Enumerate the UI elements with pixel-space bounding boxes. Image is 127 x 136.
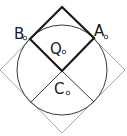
label-b: B — [14, 25, 24, 43]
label-c: C — [54, 80, 64, 98]
point-marker-a — [104, 35, 108, 39]
label-a: A — [94, 22, 105, 40]
geometry-diagram: B A Q C — [0, 0, 127, 136]
diagram-svg: B A Q C — [0, 0, 127, 136]
point-marker-b — [23, 36, 27, 40]
bold-square — [30, 7, 94, 71]
point-marker-c — [66, 91, 70, 95]
label-q: Q — [50, 40, 62, 58]
radius-right — [62, 71, 94, 102]
point-marker-q — [62, 50, 66, 54]
